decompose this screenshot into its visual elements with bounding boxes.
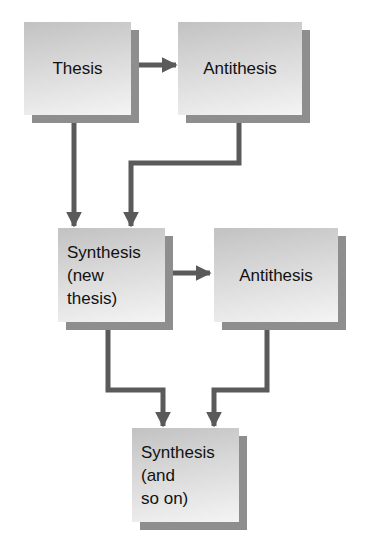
- arrow-antithesis-2-to-synthesis-2: [214, 322, 267, 426]
- box-face: Synthesis (new thesis): [58, 228, 165, 322]
- box-face: Thesis: [24, 22, 131, 115]
- node-antithesis-2: Antithesis: [214, 228, 338, 322]
- arrow-synthesis-to-synthesis-2: [108, 322, 163, 426]
- node-label-line: so on): [141, 487, 215, 510]
- box-face: Synthesis (and so on): [132, 428, 239, 522]
- node-label-group: Synthesis (and so on): [141, 441, 215, 510]
- arrow-antithesis-to-synthesis: [131, 115, 239, 226]
- node-label-line: thesis): [67, 287, 141, 310]
- node-label-line: (and: [141, 464, 215, 487]
- node-thesis: Thesis: [24, 22, 131, 115]
- node-antithesis-1: Antithesis: [178, 22, 302, 115]
- node-label-line: (new: [67, 264, 141, 287]
- box-face: Antithesis: [178, 22, 302, 115]
- node-label: Antithesis: [203, 57, 277, 80]
- node-synthesis-2: Synthesis (and so on): [132, 428, 239, 522]
- node-synthesis-1: Synthesis (new thesis): [58, 228, 165, 322]
- node-label-line: Synthesis: [67, 241, 141, 264]
- node-label: Thesis: [52, 57, 102, 80]
- node-label-line: Synthesis: [141, 441, 215, 464]
- node-label-group: Synthesis (new thesis): [67, 241, 141, 310]
- box-face: Antithesis: [214, 228, 338, 322]
- node-label: Antithesis: [239, 264, 313, 287]
